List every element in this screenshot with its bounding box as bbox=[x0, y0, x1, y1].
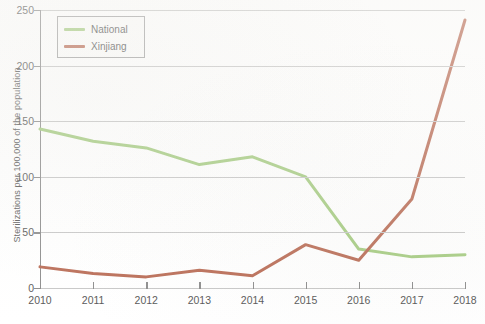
legend-swatch-xinjiang bbox=[64, 45, 85, 48]
legend-swatch-national bbox=[64, 28, 85, 31]
y-tick-mark-150 bbox=[34, 121, 41, 122]
y-tick-label-0: 0 bbox=[4, 282, 34, 294]
y-tick-mark-250 bbox=[34, 10, 41, 11]
legend-item-national: National bbox=[64, 21, 139, 38]
y-tick-label-50: 50 bbox=[4, 226, 34, 238]
x-tick-mark-2013 bbox=[199, 282, 200, 289]
legend-item-xinjiang: Xinjiang bbox=[64, 38, 139, 55]
x-tick-label-2012: 2012 bbox=[123, 294, 169, 306]
y-tick-label-100: 100 bbox=[4, 171, 34, 183]
gridline-y-150 bbox=[40, 121, 465, 122]
x-tick-label-2014: 2014 bbox=[230, 294, 276, 306]
series-line-national bbox=[40, 129, 465, 257]
x-tick-label-2017: 2017 bbox=[389, 294, 435, 306]
x-tick-mark-2018 bbox=[465, 282, 466, 289]
gridline-y-100 bbox=[40, 177, 465, 178]
y-tick-mark-50 bbox=[34, 232, 41, 233]
x-tick-label-2015: 2015 bbox=[283, 294, 329, 306]
y-tick-label-200: 200 bbox=[4, 60, 34, 72]
x-tick-label-2016: 2016 bbox=[336, 294, 382, 306]
y-tick-mark-0 bbox=[34, 288, 41, 289]
gridline-y-200 bbox=[40, 66, 465, 67]
y-tick-mark-200 bbox=[34, 66, 41, 67]
y-axis-tick-labels: 050100150200250 bbox=[0, 0, 34, 324]
legend-label-xinjiang: Xinjiang bbox=[91, 41, 127, 52]
x-tick-label-2018: 2018 bbox=[442, 294, 485, 306]
y-tick-mark-100 bbox=[34, 177, 41, 178]
x-tick-label-2010: 2010 bbox=[17, 294, 63, 306]
x-tick-mark-2014 bbox=[253, 282, 254, 289]
gridline-y-250 bbox=[40, 10, 465, 11]
x-tick-mark-2016 bbox=[359, 282, 360, 289]
x-tick-mark-2011 bbox=[93, 282, 94, 289]
x-tick-mark-2012 bbox=[146, 282, 147, 289]
x-tick-mark-2017 bbox=[412, 282, 413, 289]
line-chart: Sterilizations per 100,000 of the popula… bbox=[0, 0, 485, 324]
x-tick-label-2013: 2013 bbox=[176, 294, 222, 306]
x-tick-label-2011: 2011 bbox=[70, 294, 116, 306]
legend-label-national: National bbox=[91, 24, 128, 35]
y-tick-label-150: 150 bbox=[4, 115, 34, 127]
series-line-xinjiang bbox=[40, 20, 465, 277]
chart-legend: National Xinjiang bbox=[57, 16, 145, 58]
y-tick-label-250: 250 bbox=[4, 4, 34, 16]
gridline-y-50 bbox=[40, 232, 465, 233]
x-tick-mark-2015 bbox=[306, 282, 307, 289]
